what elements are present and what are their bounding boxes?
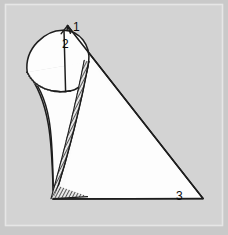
label-1: 1 xyxy=(73,20,80,34)
geometric-figure-svg: 1 2 3 xyxy=(0,0,228,235)
label-3: 3 xyxy=(176,189,183,203)
figure-container: 1 2 3 xyxy=(0,0,228,235)
label-2: 2 xyxy=(62,37,69,51)
